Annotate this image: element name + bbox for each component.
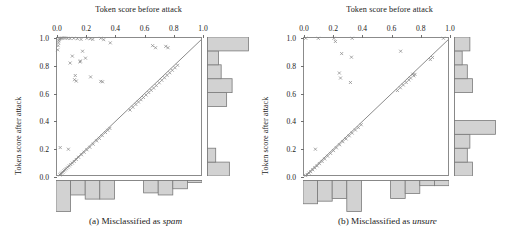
y-tick-label-a-4: 0.8 xyxy=(40,61,50,70)
marginal-x-histogram-b xyxy=(303,180,449,214)
x-tick-label-b-2: 0.4 xyxy=(358,24,368,33)
x-tick-b-5 xyxy=(450,35,451,38)
y-tick-b-2 xyxy=(301,121,304,122)
y-tick-a-5 xyxy=(54,38,57,39)
y-tick-a-0 xyxy=(54,177,57,178)
panel-caption-b: (b) Misclassified as unsure xyxy=(255,216,510,226)
marginal-y-histogram-b xyxy=(454,37,498,176)
x-axis-title-b: Token score before attack xyxy=(255,5,510,14)
x-tick-label-a-3: 0.6 xyxy=(140,24,150,33)
x-tick-a-4 xyxy=(174,35,175,38)
y-tick-label-a-5: 1.0 xyxy=(40,34,50,43)
y-tick-b-4 xyxy=(301,66,304,67)
y-tick-label-b-2: 0.4 xyxy=(287,117,297,126)
y-tick-b-1 xyxy=(301,149,304,150)
x-tick-b-4 xyxy=(421,35,422,38)
x-tick-label-a-5: 1.0 xyxy=(198,24,208,33)
y-tick-a-3 xyxy=(54,94,57,95)
panel-a: Token score before attack Token score af… xyxy=(0,0,255,247)
x-tick-a-2 xyxy=(115,35,116,38)
y-tick-label-a-2: 0.4 xyxy=(40,117,50,126)
panel-caption-a: (a) Misclassified as spam xyxy=(0,216,255,226)
x-tick-label-b-1: 0.2 xyxy=(328,24,338,33)
y-tick-label-b-0: 0.0 xyxy=(287,173,297,182)
scatter-points-a xyxy=(57,38,201,175)
y-tick-a-1 xyxy=(54,149,57,150)
scatter-plot-area-a: 0.00.20.40.60.81.00.00.20.40.60.81.0 xyxy=(56,37,202,176)
y-tick-b-0 xyxy=(301,177,304,178)
scatter-plot-area-b: 0.00.20.40.60.81.00.00.20.40.60.81.0 xyxy=(303,37,449,176)
x-tick-a-1 xyxy=(86,35,87,38)
marginal-x-histogram-a xyxy=(56,180,202,214)
x-tick-label-b-0: 0.0 xyxy=(299,24,309,33)
x-tick-label-a-2: 0.4 xyxy=(111,24,121,33)
y-axis-title-b: Token score after attack xyxy=(261,97,270,175)
y-tick-label-b-4: 0.8 xyxy=(287,61,297,70)
y-tick-label-b-1: 0.2 xyxy=(287,145,297,154)
x-tick-a-3 xyxy=(145,35,146,38)
y-tick-label-b-5: 1.0 xyxy=(287,34,297,43)
x-tick-a-0 xyxy=(57,35,58,38)
caption-emphasis-b: unsure xyxy=(412,216,437,226)
y-tick-b-5 xyxy=(301,38,304,39)
x-tick-label-a-1: 0.2 xyxy=(81,24,91,33)
x-tick-label-a-4: 0.8 xyxy=(169,24,179,33)
x-tick-label-b-4: 0.8 xyxy=(416,24,426,33)
panel-b: Token score before attack Token score af… xyxy=(255,0,510,247)
y-tick-label-a-3: 0.6 xyxy=(40,89,50,98)
y-tick-a-2 xyxy=(54,121,57,122)
y-tick-a-4 xyxy=(54,66,57,67)
x-tick-label-b-3: 0.6 xyxy=(387,24,397,33)
y-tick-b-3 xyxy=(301,94,304,95)
y-tick-label-b-3: 0.6 xyxy=(287,89,297,98)
caption-emphasis-a: spam xyxy=(163,216,182,226)
y-axis-title-a: Token score after attack xyxy=(14,97,23,175)
y-tick-label-a-1: 0.2 xyxy=(40,145,50,154)
x-tick-b-1 xyxy=(333,35,334,38)
marginal-y-histogram-a xyxy=(207,37,251,176)
x-tick-a-5 xyxy=(203,35,204,38)
caption-prefix-b: (b) Misclassified as xyxy=(338,216,412,226)
x-tick-b-2 xyxy=(362,35,363,38)
scatter-points-b xyxy=(304,38,448,175)
x-axis-title-a: Token score before attack xyxy=(0,5,255,14)
y-tick-label-a-0: 0.0 xyxy=(40,173,50,182)
figure-container: Token score before attack Token score af… xyxy=(0,0,510,247)
caption-prefix-a: (a) Misclassified as xyxy=(89,216,163,226)
x-tick-label-b-5: 1.0 xyxy=(445,24,455,33)
x-tick-b-3 xyxy=(392,35,393,38)
x-tick-b-0 xyxy=(304,35,305,38)
x-tick-label-a-0: 0.0 xyxy=(52,24,62,33)
